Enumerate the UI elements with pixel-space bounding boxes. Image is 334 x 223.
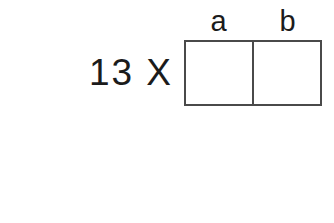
equation-row-1: 13 X a b	[0, 0, 334, 108]
equation-row-2: = 31 X b a	[0, 118, 334, 223]
figure-canvas: 13 X a b = 31 X b a	[0, 0, 334, 223]
column-headers-1: a b	[184, 6, 322, 36]
digit-cell-1-right[interactable]	[252, 42, 320, 104]
expression-text-1: 13 X	[0, 54, 177, 91]
column-header-1-a: a	[184, 6, 253, 36]
digit-box-1	[184, 40, 322, 106]
column-header-1-b: b	[253, 6, 322, 36]
digit-cell-1-left[interactable]	[186, 42, 252, 104]
